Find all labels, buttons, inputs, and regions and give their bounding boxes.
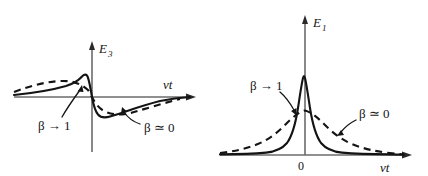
leader-arrowhead-beta-one-left [78, 85, 84, 92]
leader-line-beta-one-right [280, 92, 294, 110]
y-axis-arrowhead-left [89, 41, 95, 50]
y-axis-subscript-left: 3 [107, 49, 113, 59]
chart-panel-right: E 1 0 vt β → 1 β ≃ 0 [214, 0, 428, 176]
leader-arrowhead-beta-zero-right [337, 130, 344, 136]
chart-right-svg: E 1 0 vt β → 1 β ≃ 0 [214, 0, 428, 176]
x-axis-origin-label-right: 0 [298, 159, 304, 173]
y-axis-label-left: E [98, 41, 107, 56]
chart-left-svg: E 3 vt β → 1 β ≃ 0 [0, 0, 214, 176]
x-axis-label-right: vt [380, 160, 390, 175]
leader-line-beta-zero-left [124, 112, 140, 124]
y-axis-label-right: E [312, 15, 321, 30]
x-axis-label-left: vt [163, 77, 173, 92]
annotation-beta-approaches-one-left: β → 1 [38, 118, 71, 133]
leader-line-beta-one-left [62, 90, 80, 117]
y-axis-subscript-right: 1 [322, 23, 327, 33]
leader-line-beta-zero-right [341, 120, 356, 132]
annotation-beta-approaches-one-right: β → 1 [250, 78, 283, 93]
y-axis-arrowhead-right [302, 15, 308, 24]
figure-container: E 3 vt β → 1 β ≃ 0 [0, 0, 428, 176]
chart-panel-left: E 3 vt β → 1 β ≃ 0 [0, 0, 214, 176]
annotation-beta-near-zero-left: β ≃ 0 [144, 120, 175, 135]
annotation-beta-near-zero-right: β ≃ 0 [359, 106, 390, 121]
